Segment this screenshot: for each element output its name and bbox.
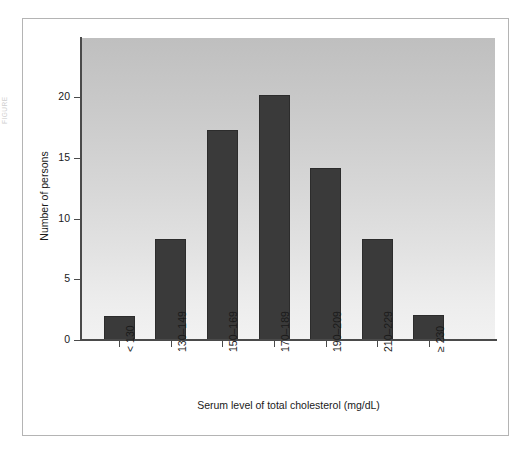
x-axis-tick — [274, 341, 275, 347]
x-axis-title: Serum level of total cholesterol (mg/dL) — [82, 399, 495, 411]
y-axis-tick — [74, 97, 80, 98]
x-axis-tick — [326, 341, 327, 347]
x-axis-tick-label: 210–229 — [382, 272, 394, 352]
y-axis-tick — [74, 158, 80, 159]
y-axis-tick — [74, 279, 80, 280]
x-axis-tick-label: 170–189 — [279, 272, 291, 352]
x-axis-tick — [377, 341, 378, 347]
y-axis-tick — [74, 340, 80, 341]
x-axis-tick-label: ≥ 230 — [434, 272, 446, 352]
y-axis-title: Number of persons — [38, 136, 50, 256]
page-margin-note: FIGURE — [1, 4, 15, 124]
x-axis-tick — [222, 341, 223, 347]
x-axis-tick-label: 190–209 — [331, 272, 343, 352]
y-axis-tick — [74, 219, 80, 220]
x-axis-tick-label: 150–169 — [227, 272, 239, 352]
y-axis-line — [80, 37, 82, 341]
x-axis-tick — [429, 341, 430, 347]
x-axis-tick — [119, 341, 120, 347]
x-axis-tick-label: < 130 — [124, 272, 136, 352]
x-axis-tick-label: 130–149 — [176, 272, 188, 352]
x-axis-tick — [171, 341, 172, 347]
y-axis-tick-label: 0 — [46, 334, 70, 345]
y-axis-tick-label: 20 — [46, 91, 70, 102]
y-axis-tick-label: 5 — [46, 273, 70, 284]
figure-root: FIGURE 05101520 < 130130–149150–169170–1… — [0, 0, 532, 454]
